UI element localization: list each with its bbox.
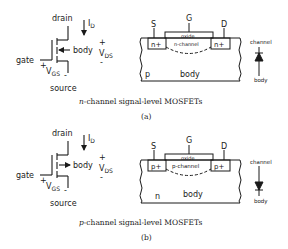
body-label: body — [73, 46, 93, 55]
current-label: ID — [88, 134, 95, 144]
vds-plus: + — [99, 153, 106, 162]
vds-minus: - — [100, 58, 103, 67]
diode-bottom-label: body — [254, 77, 268, 84]
caption-a: n-channel signal-level MOSFETs — [79, 97, 202, 106]
caption-b: p-channel signal-level MOSFETs — [79, 218, 202, 227]
substrate-label: p — [145, 70, 150, 79]
drain-terminal-label: D — [221, 20, 227, 29]
label-a: (a) — [141, 112, 151, 121]
diode-top-label: channel — [250, 39, 272, 45]
panel-b: drain ID body + VDS - gate + VGS - sourc… — [16, 129, 272, 242]
left-doping-label: p+ — [151, 163, 161, 171]
right-doping-label: n+ — [214, 41, 224, 49]
drain-label: drain — [52, 14, 73, 23]
current-label: ID — [88, 19, 95, 29]
gate-label: gate — [16, 171, 34, 180]
source-terminal-label: S — [151, 142, 156, 151]
vds-plus: + — [99, 38, 106, 47]
gate-label: gate — [16, 56, 34, 65]
vgs-label: VGS — [46, 67, 60, 77]
label-b: (b) — [141, 233, 152, 242]
channel-label: n-channel — [174, 41, 199, 47]
vgs-label: VGS — [46, 182, 60, 192]
diode-icon — [255, 47, 263, 76]
diode-top-label: channel — [250, 159, 272, 165]
gate-terminal-label: G — [186, 14, 192, 23]
body-region-label: body — [180, 70, 200, 79]
oxide-label: oxide — [181, 155, 195, 161]
diode-bottom-label: body — [254, 198, 268, 205]
gate-terminal-label: G — [186, 136, 192, 145]
drain-label: drain — [52, 129, 73, 138]
left-doping-label: n+ — [151, 41, 161, 49]
diode-icon — [255, 166, 263, 196]
channel-label: p-channel — [172, 163, 200, 170]
substrate-label: n — [155, 192, 160, 201]
vgs-minus: - — [64, 71, 67, 80]
drain-terminal-label: D — [221, 142, 227, 151]
source-label: source — [50, 84, 77, 93]
oxide-label: oxide — [181, 33, 195, 39]
body-label: body — [73, 161, 93, 170]
right-doping-label: p+ — [214, 163, 224, 171]
panel-a: drain ID body + VDS - gate + VGS - sourc… — [16, 14, 272, 121]
mosfet-diagram: drain ID body + VDS - gate + VGS - sourc… — [0, 0, 288, 249]
vds-minus: - — [100, 173, 103, 182]
vgs-minus: - — [64, 186, 67, 195]
source-label: source — [50, 199, 77, 208]
body-region-label: body — [183, 190, 203, 199]
source-terminal-label: S — [151, 20, 156, 29]
